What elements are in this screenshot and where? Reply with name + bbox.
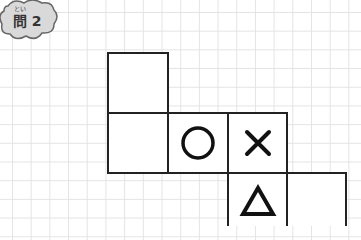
net-cell-r3c3	[227, 172, 288, 226]
net-cell-r2c3	[227, 112, 288, 174]
circle-icon	[180, 125, 216, 161]
cross-icon	[242, 127, 274, 159]
net-cell-r3c4	[286, 172, 347, 226]
net-cell-r2c2	[167, 112, 229, 174]
triangle-icon	[239, 184, 277, 218]
net-cell-r1c1	[107, 52, 169, 114]
net-cell-r2c1	[107, 112, 169, 174]
question-number: 問 2	[13, 10, 42, 30]
question-badge: とい 問 2	[0, 0, 60, 42]
